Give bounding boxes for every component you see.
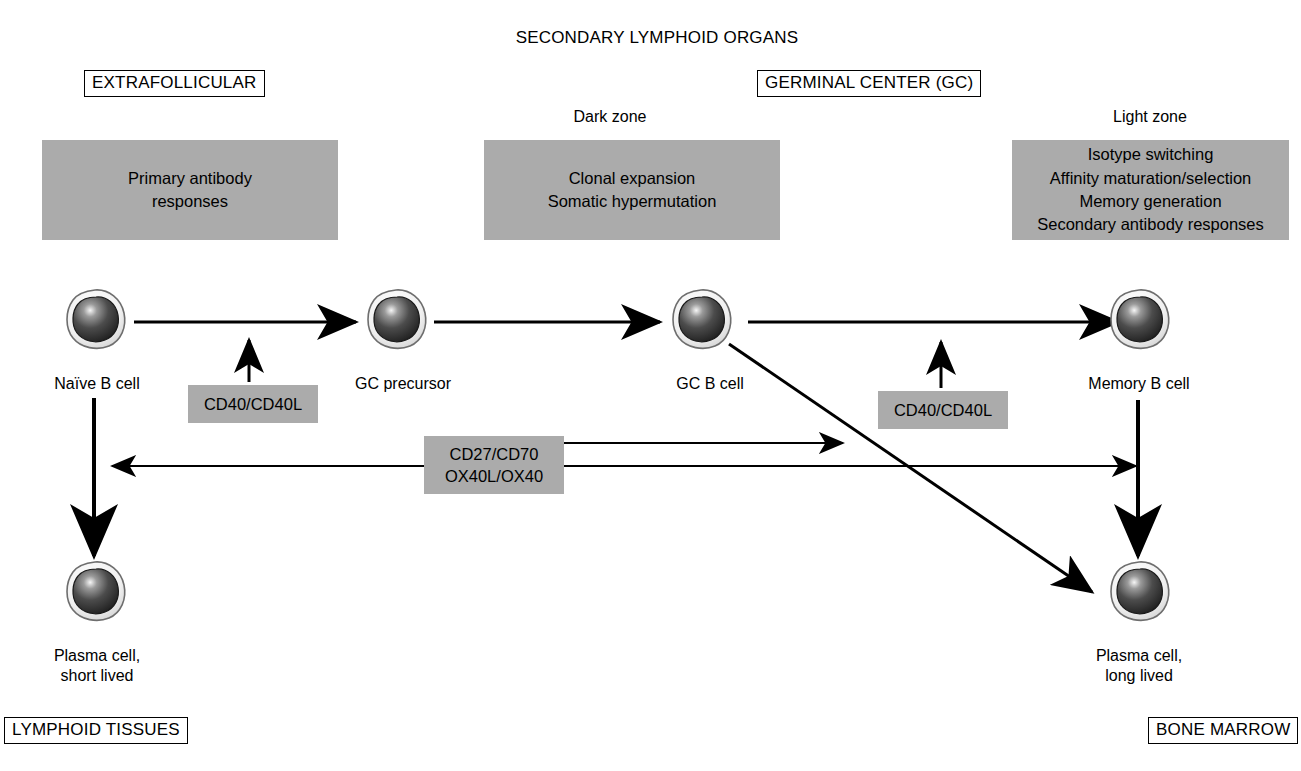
panel-light-zone-line-3: Memory generation (1037, 190, 1264, 213)
panel-extrafollicular: Primary antibody responses (42, 140, 338, 240)
label-plasma-cell-short-line-2: short lived (14, 666, 180, 686)
panel-light-zone-line-4: Secondary antibody responses (1037, 213, 1264, 236)
cell-memory-b-cell (1111, 290, 1169, 348)
panel-light-zone-line-2: Affinity maturation/selection (1037, 167, 1264, 190)
cell-gc-b-cell (673, 290, 731, 348)
panel-light-zone: Isotype switching Affinity maturation/se… (1012, 140, 1289, 240)
label-plasma-cell-short-line-1: Plasma cell, (14, 646, 180, 666)
tag-cd40-right: CD40/CD40L (878, 391, 1008, 429)
tag-costimulation-line-2: OX40L/OX40 (445, 465, 543, 487)
label-plasma-cell-short: Plasma cell, short lived (14, 646, 180, 686)
label-plasma-cell-long-line-2: long lived (1056, 666, 1222, 686)
label-gc-b-cell: GC B cell (627, 374, 793, 394)
panel-light-zone-line-1: Isotype switching (1037, 143, 1264, 166)
figure-canvas: SECONDARY LYMPHOID ORGANS EXTRAFOLLICULA… (0, 0, 1301, 771)
label-gc-precursor: GC precursor (320, 374, 486, 394)
compartment-extrafollicular: EXTRAFOLLICULAR (84, 70, 265, 97)
cell-gc-precursor (368, 290, 426, 348)
cell-plasma-cell-short (67, 562, 125, 620)
page-title: SECONDARY LYMPHOID ORGANS (457, 28, 857, 48)
panel-dark-zone-line-2: Somatic hypermutation (548, 190, 717, 213)
label-naive-b-cell: Naïve B cell (14, 374, 180, 394)
tag-costimulation: CD27/CD70 OX40L/OX40 (424, 436, 564, 494)
zone-label-dark: Dark zone (510, 108, 710, 126)
panel-dark-zone-line-1: Clonal expansion (548, 167, 717, 190)
label-plasma-cell-long-line-1: Plasma cell, (1056, 646, 1222, 666)
label-memory-b-cell: Memory B cell (1056, 374, 1222, 394)
panel-extrafollicular-line-2: responses (128, 190, 252, 213)
compartment-lymphoid-tissues: LYMPHOID TISSUES (4, 717, 188, 744)
compartment-bone-marrow: BONE MARROW (1148, 717, 1298, 744)
label-plasma-cell-long: Plasma cell, long lived (1056, 646, 1222, 686)
compartment-germinal-center: GERMINAL CENTER (GC) (757, 70, 981, 97)
cell-naive-b-cell (67, 290, 125, 348)
zone-label-light: Light zone (1050, 108, 1250, 126)
tag-cd40-left: CD40/CD40L (188, 385, 318, 423)
tag-costimulation-line-1: CD27/CD70 (450, 443, 539, 465)
cell-plasma-cell-long (1111, 562, 1169, 620)
panel-extrafollicular-line-1: Primary antibody (128, 167, 252, 190)
panel-dark-zone: Clonal expansion Somatic hypermutation (484, 140, 780, 240)
